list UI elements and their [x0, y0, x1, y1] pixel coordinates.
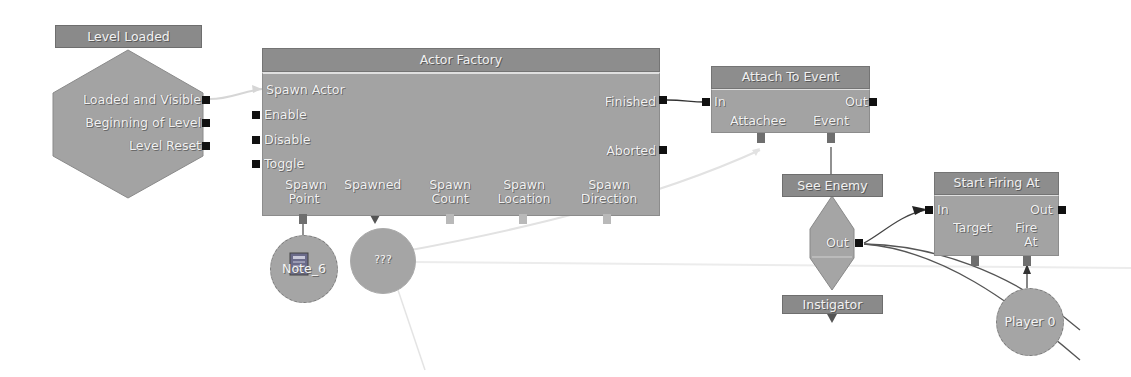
actor-factory-title[interactable]: Actor Factory — [262, 48, 660, 72]
input-toggle: Toggle — [264, 157, 304, 171]
output-beginning-of-level: Beginning of Level — [85, 116, 201, 130]
var-event: Event — [813, 114, 849, 128]
unknown-variable[interactable]: ??? — [350, 228, 416, 294]
level-loaded-title[interactable]: Level Loaded — [55, 25, 202, 48]
pin-spawn-count[interactable] — [446, 214, 454, 224]
var-fire-at: FireAt — [1015, 221, 1037, 249]
var-target: Target — [953, 221, 992, 235]
instigator-variable[interactable]: Instigator — [782, 295, 883, 314]
var-spawn-location: SpawnLocation — [494, 178, 554, 206]
pin-finished[interactable] — [659, 96, 667, 104]
pin-event[interactable] — [827, 133, 835, 143]
output-loaded-and-visible: Loaded and Visible — [83, 93, 201, 107]
input-spawn-actor: Spawn Actor — [266, 83, 345, 97]
input-disable: Disable — [264, 133, 310, 147]
var-attachee: Attachee — [730, 114, 786, 128]
pin-target[interactable] — [971, 256, 979, 266]
start-firing-in-label: In — [937, 203, 949, 217]
pin-loaded-and-visible[interactable] — [202, 96, 210, 104]
input-enable: Enable — [264, 108, 307, 122]
player-0-variable[interactable]: Player 0 — [996, 288, 1064, 356]
output-aborted: Aborted — [606, 144, 656, 158]
var-spawn-direction: SpawnDirection — [578, 178, 640, 206]
pin-start-firing-out[interactable] — [1058, 206, 1066, 214]
pin-attachee[interactable] — [757, 133, 765, 143]
pin-spawn-point[interactable] — [299, 214, 307, 224]
output-out: Out — [845, 95, 868, 109]
input-in: In — [714, 95, 726, 109]
pin-start-firing-in[interactable] — [925, 206, 933, 214]
start-firing-at-title[interactable]: Start Firing At — [934, 172, 1059, 195]
output-finished: Finished — [605, 95, 656, 109]
pin-disable[interactable] — [252, 136, 260, 144]
var-spawned: Spawned — [344, 178, 401, 192]
pin-aborted[interactable] — [659, 146, 667, 154]
pin-spawn-direction[interactable] — [603, 214, 611, 224]
output-level-reset: Level Reset — [129, 139, 201, 153]
note-6-variable[interactable]: Note_6 — [270, 235, 338, 303]
pin-beginning-of-level[interactable] — [202, 119, 210, 127]
pin-fire-at[interactable] — [1023, 256, 1031, 266]
var-spawn-count: SpawnCount — [428, 178, 472, 206]
var-spawn-point: SpawnPoint — [285, 178, 323, 206]
pin-attach-in[interactable] — [702, 98, 710, 106]
start-firing-out-label: Out — [1030, 203, 1053, 217]
attach-to-event-title[interactable]: Attach To Event — [711, 66, 870, 89]
pin-see-enemy-out[interactable] — [855, 239, 863, 247]
see-enemy-out-label: Out — [826, 236, 849, 250]
pin-level-reset[interactable] — [202, 142, 210, 150]
pin-toggle[interactable] — [252, 160, 260, 168]
pin-enable[interactable] — [252, 111, 260, 119]
see-enemy-title[interactable]: See Enemy — [782, 174, 883, 197]
pin-attach-out[interactable] — [869, 98, 877, 106]
pin-spawn-location[interactable] — [519, 214, 527, 224]
